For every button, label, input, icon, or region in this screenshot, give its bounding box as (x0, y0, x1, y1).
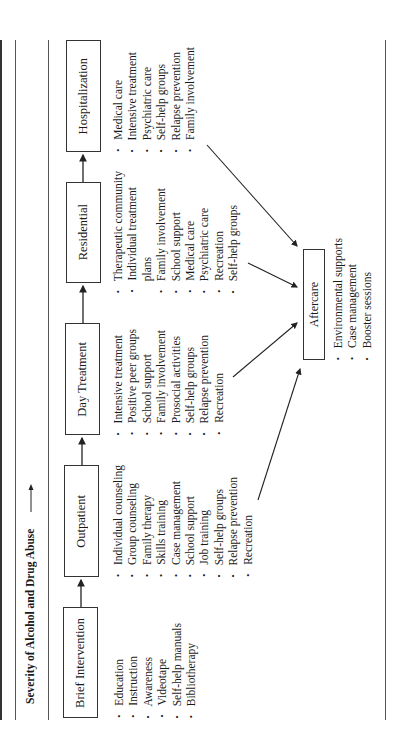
level-box-aftercare: Aftercare (303, 249, 325, 360)
list-item: • Individual treatment (125, 187, 139, 293)
list-item: • Family involvement (183, 47, 197, 152)
list-item: • School support (140, 354, 154, 435)
list-brief-intervention: • Education • Instruction • Awareness • … (112, 590, 198, 718)
level-box-day-treatment: Day Treatment (65, 323, 100, 435)
list-outpatient: • Individual counseling • Group counseli… (111, 420, 255, 577)
arrow-outpatient-to-aftercare (258, 369, 300, 500)
list-item: • Booster sessions (360, 272, 374, 360)
frame-right-rule (385, 40, 386, 720)
list-item: • Relapse prevention (197, 335, 211, 436)
list-item: • Job training (197, 510, 211, 577)
list-item: • Family therapy (140, 495, 154, 577)
list-item: • Positive peer groups (125, 329, 139, 435)
diagram-title: Severity of Alcohol and Drug Abuse (24, 528, 36, 704)
list-item: • Prosocial activities (169, 336, 183, 435)
list-item: • Case management (169, 481, 183, 577)
list-item-continuation: • plans (140, 257, 154, 293)
arrow-day-treatment-to-aftercare (233, 323, 297, 377)
list-item: • Environmental supports (331, 238, 345, 360)
list-item: • Self-help groups (226, 205, 240, 293)
level-label: Day Treatment (75, 342, 90, 417)
list-item: • School support (183, 496, 197, 577)
level-label: Residential (76, 204, 91, 260)
header-rule-top (15, 40, 16, 720)
list-day-treatment: • Intensive treatment • Positive peer gr… (111, 280, 226, 435)
list-item: • Self-help groups (154, 64, 168, 152)
list-item: • Psychiatric care (140, 67, 154, 152)
level-box-outpatient: Outpatient (64, 465, 99, 577)
list-hospitalization: • Medical care • Intensive treatment • P… (111, 40, 197, 152)
list-item: • Videotape (155, 659, 169, 718)
list-item: • Medical care (183, 221, 197, 293)
list-item: • Medical care (111, 80, 125, 152)
level-label: Hospitalization (76, 58, 91, 134)
list-item: • Skills training (154, 500, 168, 577)
list-item: • School support (169, 212, 183, 293)
list-item: • Self-help manuals (170, 623, 184, 718)
list-item: • Intensive treatment (125, 52, 139, 152)
level-label: Brief Intervention (73, 618, 88, 708)
level-box-brief-intervention: Brief Intervention (63, 607, 98, 718)
list-item: • Awareness (141, 657, 155, 718)
list-item: • Therapeutic community (111, 171, 125, 293)
level-label: Aftercare (307, 282, 322, 327)
list-aftercare: • Environmental supports • Case manageme… (331, 230, 374, 360)
arrow-residential-to-aftercare (248, 263, 297, 287)
level-box-hospitalization: Hospitalization (66, 40, 101, 152)
list-item: • Self-help groups (183, 347, 197, 435)
list-item: • Family involvement (154, 330, 168, 435)
list-item: • Intensive treatment (111, 335, 125, 435)
list-item: • Psychiatric care (197, 208, 211, 293)
list-item: • Self-help groups (212, 489, 226, 577)
level-box-residential: Residential (66, 182, 101, 283)
level-label: Outpatient (74, 495, 89, 548)
list-item: • Bibliotherapy (184, 643, 198, 718)
list-item: • Individual counseling (111, 465, 125, 577)
list-item: • Recreation (212, 231, 226, 293)
diagram-title-text: Severity of Alcohol and Drug Abuse (24, 529, 36, 704)
header-rule-bottom (48, 40, 49, 720)
list-item: • Family involvement (154, 188, 168, 293)
list-item: • Instruction (126, 656, 140, 718)
frame-left-thick-rule (0, 40, 2, 720)
list-residential: • Therapeutic community • Individual tre… (111, 140, 241, 293)
list-item: • Group counseling (125, 483, 139, 577)
list-item: • Recreation (241, 515, 255, 577)
list-item: • Recreation (212, 373, 226, 435)
list-item: • Education (112, 659, 126, 718)
list-item: • Case management (345, 264, 359, 360)
list-item: • Relapse prevention (169, 52, 183, 153)
list-item: • Relapse prevention (226, 477, 240, 578)
